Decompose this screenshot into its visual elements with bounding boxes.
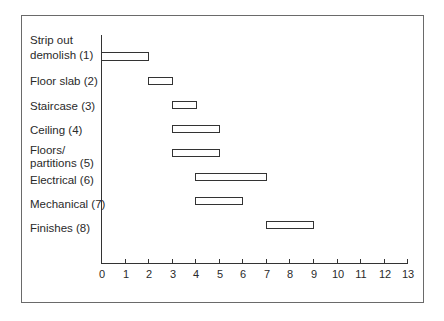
x-tick <box>148 259 149 263</box>
x-tick <box>384 259 385 263</box>
gantt-bar <box>195 197 243 205</box>
gantt-bar <box>195 173 267 181</box>
task-label-4: Ceiling (4) <box>30 124 82 137</box>
task-label-5b: partitions (5) <box>30 157 94 170</box>
gantt-bar <box>172 125 220 133</box>
x-tick-label: 7 <box>257 268 277 280</box>
x-tick <box>242 259 243 263</box>
x-tick <box>289 259 290 263</box>
x-tick <box>360 259 361 263</box>
task-label-7: Mechanical (7) <box>30 198 105 211</box>
x-tick-label: 12 <box>375 268 395 280</box>
x-tick-label: 11 <box>351 268 371 280</box>
y-axis <box>101 35 102 263</box>
task-label-8: Finishes (8) <box>30 222 90 235</box>
gantt-bar <box>172 101 197 109</box>
gantt-bar <box>172 149 220 157</box>
x-tick-label: 10 <box>328 268 348 280</box>
task-label-1a: Strip out <box>30 34 73 47</box>
x-tick-label: 5 <box>210 268 230 280</box>
task-label-2: Floor slab (2) <box>30 75 98 88</box>
x-tick-label: 1 <box>116 268 136 280</box>
x-axis <box>101 263 408 264</box>
task-label-6: Electrical (6) <box>30 174 94 187</box>
x-tick <box>337 259 338 263</box>
gantt-bar <box>148 77 173 85</box>
x-tick-label: 4 <box>186 268 206 280</box>
task-label-5a: Floors/ <box>30 144 65 157</box>
x-tick-label: 8 <box>280 268 300 280</box>
x-tick-label: 0 <box>92 268 112 280</box>
gantt-bar <box>101 52 149 61</box>
x-tick <box>125 259 126 263</box>
x-tick-label: 13 <box>398 268 418 280</box>
gantt-bar <box>266 221 314 229</box>
x-tick-label: 9 <box>304 268 324 280</box>
x-tick-label: 3 <box>163 268 183 280</box>
x-tick <box>313 259 314 263</box>
task-label-1b: demolish (1) <box>30 49 93 62</box>
x-tick <box>407 259 408 263</box>
x-tick <box>219 259 220 263</box>
x-tick <box>266 259 267 263</box>
x-tick-label: 6 <box>233 268 253 280</box>
x-tick <box>195 259 196 263</box>
task-label-3: Staircase (3) <box>30 100 95 113</box>
x-tick <box>172 259 173 263</box>
x-tick-label: 2 <box>139 268 159 280</box>
